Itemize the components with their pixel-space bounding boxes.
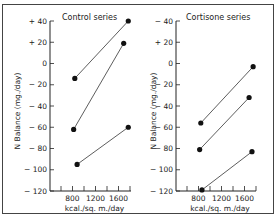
data-point (251, 64, 256, 69)
y-tick-label: + 20 (29, 38, 47, 47)
data-point (72, 76, 77, 81)
series-line (202, 152, 252, 190)
y-tick-label: − 60 (29, 123, 47, 132)
y-tick-label: − 40 (29, 102, 47, 111)
y-tick-label: − 20 (29, 80, 47, 89)
series-line (200, 98, 249, 150)
x-axis-title: kcal./sq. m./day (190, 204, 250, 213)
x-tick-label: 800 (191, 194, 206, 203)
x-tick-label: 1200 (212, 194, 231, 203)
y-tick-label: − 40 (155, 17, 173, 26)
data-point (71, 127, 76, 132)
data-point (126, 125, 131, 130)
series-line (201, 67, 253, 123)
y-tick-label: + 20 (155, 38, 173, 47)
x-tick-label: 800 (65, 194, 80, 203)
data-point (249, 149, 254, 154)
panel-title: Control series (62, 13, 117, 22)
data-point (199, 187, 204, 192)
y-tick-label: − 120 (24, 187, 47, 196)
y-tick-label: + 40 (29, 17, 47, 26)
data-point (121, 41, 126, 46)
y-tick-label: − 100 (24, 165, 47, 174)
y-axis-title: N Balance (mg./day) (149, 72, 158, 149)
data-point (198, 120, 203, 125)
x-tick-label: 1600 (109, 194, 128, 203)
panel-title: Cortisone series (186, 13, 250, 22)
x-tick-label: 1200 (86, 194, 105, 203)
data-point (75, 162, 80, 167)
y-axis-title: N Balance (mg./day) (13, 72, 22, 149)
x-tick-label: 1600 (235, 194, 254, 203)
y-tick-label: − 100 (150, 165, 173, 174)
data-point (247, 95, 252, 100)
x-axis-title: kcal./sq. m./day (65, 204, 125, 213)
y-tick-label: − 80 (29, 144, 47, 153)
series-line (74, 43, 124, 129)
y-tick-label: 0 (42, 59, 47, 68)
data-point (197, 147, 202, 152)
y-tick-label: − 120 (150, 187, 173, 196)
chart-canvas: + 40+ 200− 20− 40− 60− 80− 100− 12080012… (0, 0, 277, 222)
series-line (77, 127, 128, 164)
y-tick-label: 0 (168, 59, 173, 68)
data-point (126, 18, 131, 23)
